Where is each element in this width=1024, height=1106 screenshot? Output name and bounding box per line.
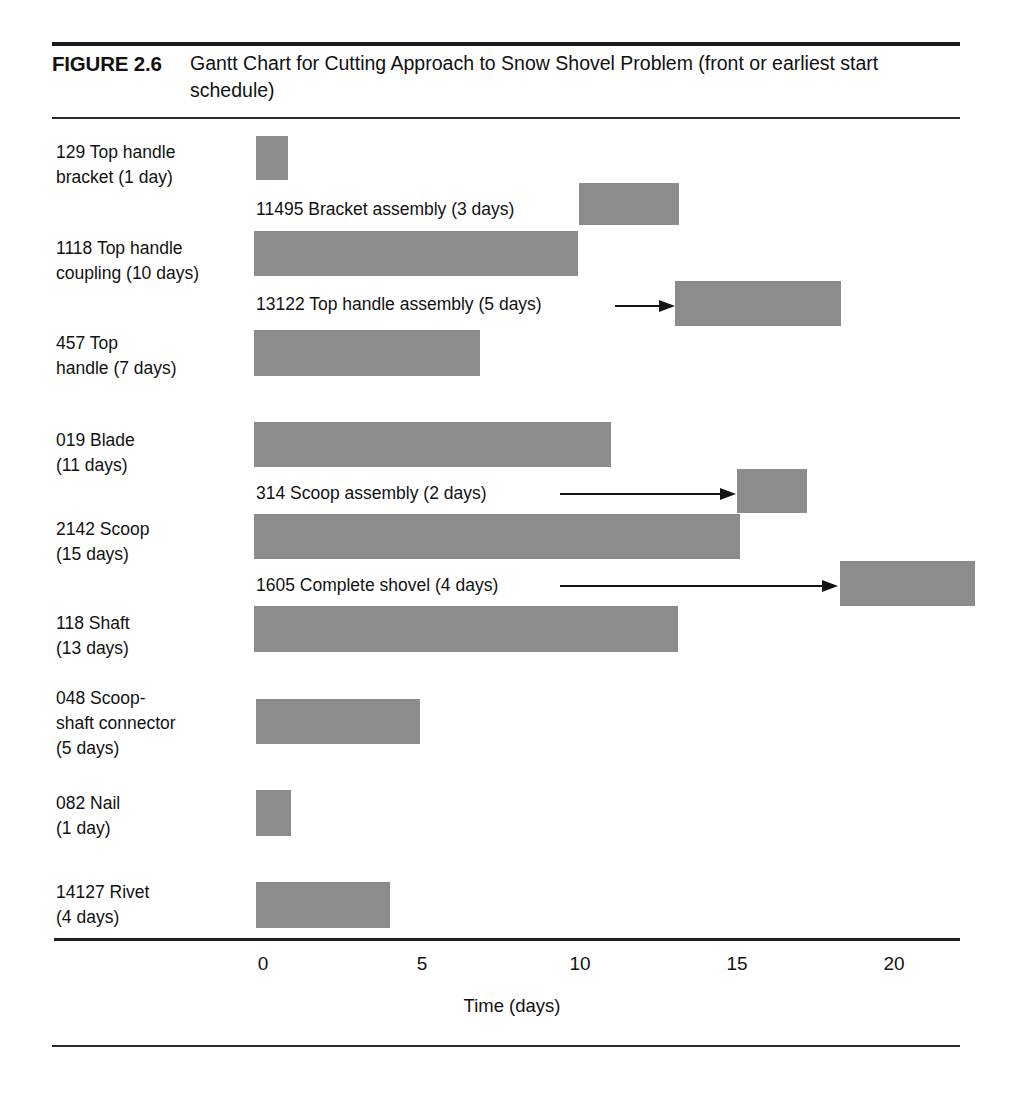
x-tick-15: 15	[715, 952, 759, 976]
x-tick-10: 10	[558, 952, 602, 976]
task-bar-019	[254, 422, 611, 467]
task-label-11495: 11495 Bracket assembly (3 days)	[256, 198, 514, 220]
task-bar-457	[254, 330, 480, 376]
arrow-icon-13122	[615, 298, 675, 314]
task-label-1605: 1605 Complete shovel (4 days)	[256, 574, 498, 596]
x-axis-title: Time (days)	[0, 995, 1024, 1017]
x-axis-line	[54, 938, 960, 941]
arrow-icon-1605	[560, 578, 838, 594]
task-bar-118	[254, 606, 678, 652]
x-tick-0: 0	[241, 952, 285, 976]
task-bar-14127	[256, 882, 390, 928]
task-label-13122: 13122 Top handle assembly (5 days)	[256, 293, 542, 315]
arrow-icon-314	[560, 486, 736, 502]
task-bar-314	[737, 469, 807, 513]
task-label-14127: 14127 Rivet (4 days)	[56, 880, 256, 930]
task-label-129: 129 Top handle bracket (1 day)	[56, 140, 246, 190]
task-bar-11495	[579, 183, 679, 225]
task-bar-13122	[675, 281, 841, 326]
figure-page: FIGURE 2.6 Gantt Chart for Cutting Appro…	[0, 0, 1024, 1106]
task-bar-129	[256, 136, 288, 180]
task-label-019: 019 Blade (11 days)	[56, 428, 256, 478]
task-label-457: 457 Top handle (7 days)	[56, 331, 256, 381]
task-bar-2142	[254, 514, 740, 559]
rule-bottom	[52, 1045, 960, 1047]
task-label-118: 118 Shaft (13 days)	[56, 611, 256, 661]
task-label-2142: 2142 Scoop (15 days)	[56, 517, 256, 567]
x-tick-5: 5	[400, 952, 444, 976]
task-label-314: 314 Scoop assembly (2 days)	[256, 482, 487, 504]
task-label-082: 082 Nail (1 day)	[56, 791, 256, 841]
x-tick-20: 20	[872, 952, 916, 976]
task-label-1118: 1118 Top handle coupling (10 days)	[56, 236, 256, 286]
task-bar-1118	[254, 231, 578, 276]
task-bar-048	[256, 699, 420, 744]
task-label-048: 048 Scoop- shaft connector (5 days)	[56, 686, 256, 761]
task-bar-082	[256, 790, 291, 836]
task-bar-1605	[840, 561, 975, 606]
